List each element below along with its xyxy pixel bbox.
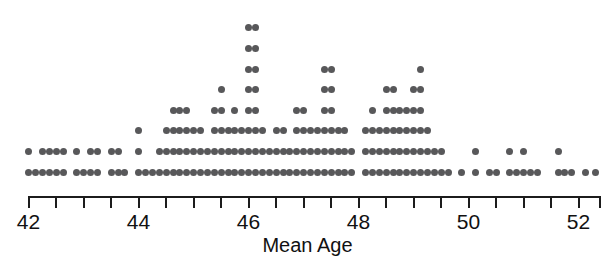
axis-tick <box>440 196 442 208</box>
axis-tick <box>55 196 57 208</box>
axis-end-cap <box>28 196 30 208</box>
x-axis-title: Mean Age <box>0 234 615 257</box>
axis-tick-label: 42 <box>17 210 40 234</box>
axis-tick-label: 52 <box>567 210 590 234</box>
axis-tick <box>385 196 387 208</box>
axis-tick-label: 44 <box>127 210 150 234</box>
axis-tick <box>413 196 415 208</box>
axis-tick-label: 50 <box>457 210 480 234</box>
dot-plot-figure: 424446485052 Mean Age <box>0 0 615 268</box>
axis-end-cap <box>599 196 601 208</box>
axis-tick <box>193 196 195 208</box>
axis-tick-label: 46 <box>237 210 260 234</box>
axis-tick <box>220 196 222 208</box>
axis-tick <box>523 196 525 208</box>
x-axis: 424446485052 <box>0 0 615 268</box>
axis-tick <box>303 196 305 208</box>
axis-tick <box>550 196 552 208</box>
axis-line <box>29 196 601 198</box>
axis-tick <box>330 196 332 208</box>
axis-tick <box>248 196 250 208</box>
axis-tick <box>358 196 360 208</box>
axis-tick <box>138 196 140 208</box>
axis-tick-label: 48 <box>347 210 370 234</box>
axis-tick <box>578 196 580 208</box>
axis-tick <box>275 196 277 208</box>
axis-tick <box>110 196 112 208</box>
axis-tick <box>468 196 470 208</box>
axis-tick <box>495 196 497 208</box>
axis-tick <box>83 196 85 208</box>
axis-tick <box>165 196 167 208</box>
